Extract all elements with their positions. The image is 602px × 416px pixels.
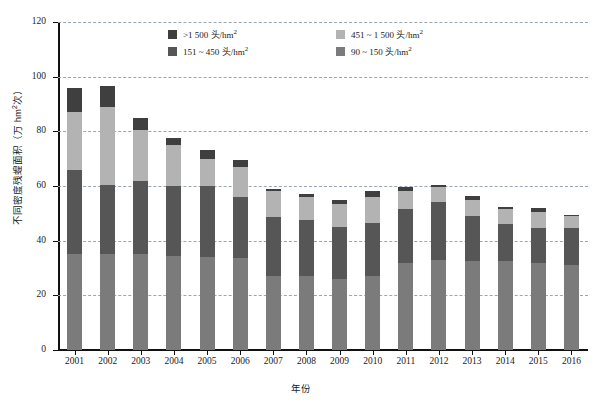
bar-segment: [233, 160, 248, 167]
bar-group: [332, 22, 347, 350]
bar-segment: [166, 138, 181, 145]
bar-segment: [299, 197, 314, 220]
legend-swatch-icon: [336, 30, 345, 39]
bar-segment: [200, 150, 215, 158]
bar-segment: [332, 227, 347, 279]
bar-segment: [398, 209, 413, 262]
bar-segment: [531, 208, 546, 212]
y-axis-tick-labels: 020406080100120: [0, 22, 54, 350]
y-axis-tick: [53, 295, 58, 296]
x-axis-tick-label: 2004: [164, 357, 183, 367]
bar-group: [564, 22, 579, 350]
x-axis-tick-label: 2015: [529, 357, 548, 367]
x-axis-tick-label: 2007: [264, 357, 283, 367]
bar-segment: [100, 107, 115, 185]
x-axis-tick-label: 2005: [198, 357, 217, 367]
bar-segment: [299, 220, 314, 276]
x-axis-tick: [373, 350, 374, 355]
bar-segment: [266, 191, 281, 217]
x-axis-tick-label: 2009: [330, 357, 349, 367]
x-axis-tick: [472, 350, 473, 355]
x-axis-tick: [108, 350, 109, 355]
bar-group: [299, 22, 314, 350]
bar-segment: [465, 216, 480, 261]
bar-segment: [67, 88, 82, 113]
y-axis-title-main: 不同密度残蝗面积（万 hm: [12, 109, 23, 225]
bar-group: [166, 22, 181, 350]
bar-segment: [431, 185, 446, 188]
x-axis-tick-label: 2014: [496, 357, 515, 367]
bar-segment: [100, 185, 115, 255]
bar-segment: [564, 216, 579, 228]
bar-segment: [299, 194, 314, 197]
y-axis-tick-label: 20: [37, 291, 47, 301]
bar-group: [365, 22, 380, 350]
x-axis-tick: [207, 350, 208, 355]
x-axis-tick: [439, 350, 440, 355]
bar-segment: [398, 187, 413, 191]
x-axis-tick: [571, 350, 572, 355]
x-axis-tick: [505, 350, 506, 355]
bar-segment: [465, 261, 480, 350]
x-axis-tick: [174, 350, 175, 355]
bar-segment: [398, 263, 413, 350]
legend-item-gt-1500: >1 500 头/hm2: [168, 28, 336, 41]
y-axis-title: 不同密度残蝗面积（万 hm2次）: [10, 50, 24, 260]
bar-segment: [365, 276, 380, 350]
y-axis-title-superscript: 2: [11, 105, 18, 109]
x-axis-tick-label: 2003: [131, 357, 150, 367]
bar-segment: [166, 145, 181, 186]
x-axis-tick-labels: 2001200220032004200520062007200820092010…: [58, 357, 588, 371]
stacked-bar-chart: 020406080100120 200120022003200420052006…: [0, 0, 602, 416]
legend-label: >1 500 头/hm2: [183, 28, 237, 41]
bar-segment: [564, 265, 579, 350]
bar-segment: [332, 200, 347, 204]
x-axis-tick-label: 2010: [363, 357, 382, 367]
bar-group: [431, 22, 446, 350]
bar-segment: [564, 215, 579, 216]
x-axis-tick-label: 2008: [297, 357, 316, 367]
bar-segment: [365, 191, 380, 196]
bar-segment: [100, 254, 115, 350]
x-axis-tick: [141, 350, 142, 355]
x-axis-tick-label: 2001: [65, 357, 84, 367]
x-axis-tick-label: 2013: [463, 357, 482, 367]
x-axis-tick: [240, 350, 241, 355]
bar-segment: [233, 258, 248, 350]
y-axis-tick-label: 0: [41, 345, 46, 355]
y-axis-tick-label: 100: [32, 72, 46, 82]
y-axis-tick: [53, 241, 58, 242]
bar-segment: [200, 257, 215, 350]
bar-group: [498, 22, 513, 350]
y-axis-tick-label: 60: [37, 181, 47, 191]
legend-label: 90 ~ 150 头/hm2: [351, 45, 412, 58]
bar-segment: [564, 228, 579, 265]
x-axis-tick: [306, 350, 307, 355]
x-axis-title: 年份: [0, 381, 602, 395]
bar-segment: [266, 189, 281, 192]
bar-segment: [332, 279, 347, 350]
y-axis-tick-label: 120: [32, 17, 46, 27]
bar-segment: [100, 86, 115, 107]
y-axis-title-tail: 次）: [12, 85, 23, 105]
bar-segment: [431, 187, 446, 202]
bar-segment: [398, 191, 413, 209]
x-axis-tick: [406, 350, 407, 355]
bar-segment: [465, 196, 480, 200]
x-axis-tick-label: 2002: [98, 357, 117, 367]
bar-segment: [465, 200, 480, 216]
bar-segment: [233, 167, 248, 197]
bar-segment: [365, 223, 380, 276]
legend-item-451-1500: 451 ~ 1 500 头/hm2: [336, 28, 498, 41]
bar-group: [465, 22, 480, 350]
bar-segment: [266, 217, 281, 276]
x-axis-tick-label: 2012: [429, 357, 448, 367]
bar-segment: [332, 204, 347, 227]
x-axis-tick: [340, 350, 341, 355]
bar-segment: [133, 130, 148, 181]
y-axis-tick: [53, 186, 58, 187]
bar-segment: [531, 212, 546, 228]
bar-segment: [431, 202, 446, 259]
bar-segment: [498, 224, 513, 261]
bar-segment: [67, 254, 82, 350]
